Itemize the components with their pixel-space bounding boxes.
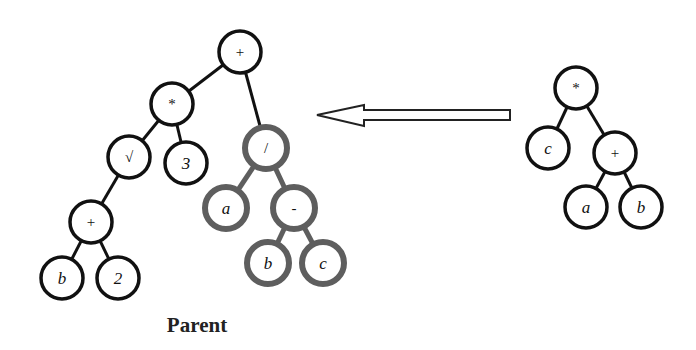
node-label: +	[87, 214, 95, 230]
tree-node: √	[108, 136, 150, 178]
donor-tree: *c+ab	[527, 67, 662, 228]
tree-node: *	[555, 67, 597, 109]
tree-node: +	[594, 132, 636, 174]
node-label: *	[168, 96, 176, 112]
node-label: +	[236, 44, 244, 60]
tree-node: 2	[97, 257, 139, 299]
tree-node: b	[41, 257, 83, 299]
node-label: b	[58, 269, 67, 288]
tree-node: -	[273, 187, 315, 229]
node-label: 3	[181, 154, 191, 173]
node-label: *	[572, 80, 580, 96]
tree-node: b	[247, 242, 289, 284]
node-label: a	[222, 199, 231, 218]
tree-node: 3	[165, 142, 207, 184]
node-label: a	[582, 198, 591, 217]
tree-node: c	[302, 242, 344, 284]
donor-tree-nodes: *c+ab	[527, 67, 662, 228]
tree-node: b	[620, 186, 662, 228]
tree-node: a	[205, 187, 247, 229]
node-label: b	[264, 254, 273, 273]
tree-node: +	[219, 31, 261, 73]
parent-tree-nodes: +*√3+b2/a-bc	[41, 31, 344, 299]
tree-node: c	[527, 127, 569, 169]
tree-node: /	[245, 127, 287, 169]
crossover-diagram: +*√3+b2/a-bc *c+ab Parent	[0, 0, 696, 350]
left-arrow-icon	[317, 105, 510, 126]
tree-node: a	[565, 186, 607, 228]
node-label: √	[125, 149, 134, 165]
node-label: +	[611, 145, 619, 161]
node-label: -	[292, 200, 297, 216]
node-label: b	[637, 198, 646, 217]
node-label: c	[544, 139, 552, 158]
node-label: 2	[114, 269, 123, 288]
parent-tree: +*√3+b2/a-bc	[41, 31, 344, 299]
parent-caption: Parent	[167, 313, 227, 337]
tree-node: *	[151, 83, 193, 125]
tree-node: +	[70, 201, 112, 243]
node-label: c	[319, 254, 327, 273]
